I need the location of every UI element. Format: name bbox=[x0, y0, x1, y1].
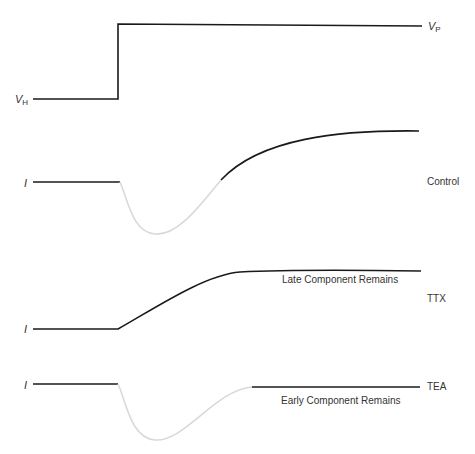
control-inward-current bbox=[120, 180, 221, 234]
pulse-voltage-label: VP bbox=[428, 20, 441, 34]
ttx-condition-label: TTX bbox=[427, 293, 446, 304]
diagram-canvas: VH VP I Control I Late Component Remains… bbox=[0, 0, 475, 454]
tea-annotation: Early Component Remains bbox=[281, 395, 401, 406]
tea-current-label: I bbox=[24, 379, 27, 391]
tea-inward-current bbox=[118, 384, 252, 440]
holding-voltage-label: VH bbox=[15, 93, 28, 107]
control-current-label: I bbox=[24, 177, 27, 189]
tea-trace: I Early Component Remains TEA bbox=[24, 379, 447, 440]
control-condition-label: Control bbox=[427, 176, 459, 187]
ttx-trace: I Late Component Remains TTX bbox=[24, 270, 446, 335]
ttx-annotation: Late Component Remains bbox=[282, 274, 398, 285]
voltage-step-trace bbox=[33, 24, 422, 99]
control-trace: I Control bbox=[24, 131, 459, 234]
control-outward-current bbox=[221, 131, 419, 180]
ttx-current-label: I bbox=[24, 323, 27, 335]
tea-condition-label: TEA bbox=[427, 381, 447, 392]
